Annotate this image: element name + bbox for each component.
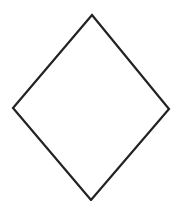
diamond-svg [0,0,183,201]
diamond-shape [13,15,169,200]
diagram-canvas [0,0,183,201]
